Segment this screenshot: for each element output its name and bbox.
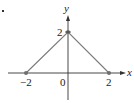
bullet-dot bbox=[2, 10, 4, 12]
y-tick-label-2: 2 bbox=[57, 26, 63, 38]
point-2-0 bbox=[107, 71, 111, 75]
y-axis-label: y bbox=[63, 2, 69, 14]
y-axis-arrow-icon bbox=[66, 15, 70, 21]
x-axis-arrow-icon bbox=[120, 71, 126, 75]
origin-label: 0 bbox=[60, 76, 66, 88]
x-tick-label-neg2: −2 bbox=[20, 76, 32, 88]
x-axis-label: x bbox=[126, 66, 132, 78]
x-tick-label-2: 2 bbox=[106, 76, 112, 88]
point-neg2-0 bbox=[24, 71, 28, 75]
function-line bbox=[26, 32, 109, 73]
graph: y 2 −2 0 2 x bbox=[0, 0, 134, 103]
